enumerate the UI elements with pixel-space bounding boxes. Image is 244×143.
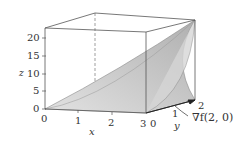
x-tick-1: 1 bbox=[75, 116, 81, 126]
z-tick-10: 10 bbox=[27, 69, 40, 79]
y-axis-label: y bbox=[174, 121, 180, 131]
y-tick-1: 1 bbox=[172, 109, 178, 119]
x-axis-label: x bbox=[89, 127, 95, 137]
z-tick-0: 0 bbox=[33, 104, 39, 114]
x-tick-0: 0 bbox=[41, 114, 47, 124]
z-axis-label: z bbox=[19, 69, 24, 78]
x-tick-2: 2 bbox=[108, 118, 114, 128]
z-axis-ticks bbox=[42, 38, 46, 109]
z-tick-5: 5 bbox=[33, 86, 39, 96]
y-tick-2: 2 bbox=[198, 101, 204, 111]
surface bbox=[45, 20, 195, 113]
x-tick-3: 3 bbox=[140, 119, 146, 129]
gradient-annotation: ∇f(2, 0) bbox=[192, 112, 233, 123]
z-tick-15: 15 bbox=[27, 51, 40, 61]
y-tick-0: 0 bbox=[150, 119, 156, 129]
z-tick-20: 20 bbox=[27, 33, 40, 43]
